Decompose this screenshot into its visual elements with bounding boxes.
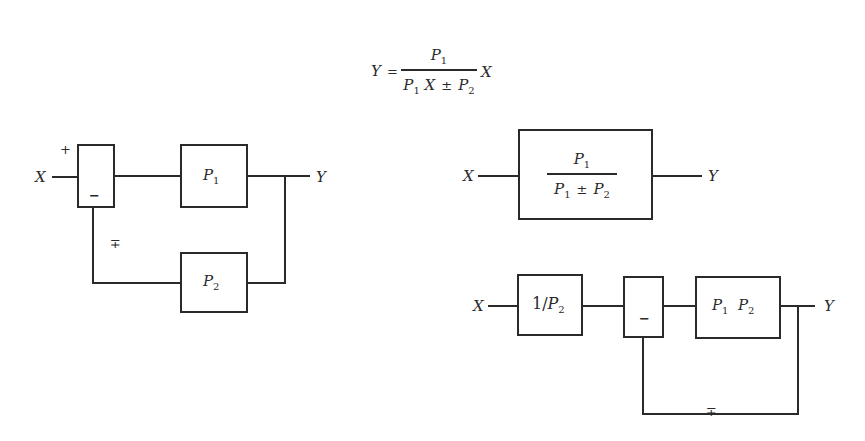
rt-denominator: P1±P2 (554, 175, 610, 200)
left-p1-label: P1 (203, 168, 219, 186)
eq-equals: = (387, 65, 398, 78)
left-minus-sign: − (89, 189, 100, 202)
rb-minus-sign: − (639, 312, 650, 325)
rt-numerator: P1 (574, 150, 590, 173)
left-feedback-right (247, 176, 285, 283)
rb-summer-box (624, 277, 663, 337)
rt-block-fraction: P1 P1±P2 (547, 150, 617, 200)
rb-feedback-line (643, 306, 798, 414)
eq-denominator: P1 X±P2 (403, 71, 474, 96)
eq-lhs: Y (371, 64, 381, 79)
rb-inv-p2-label: 1/P2 (532, 296, 565, 315)
eq-trailing-x: X (481, 65, 492, 80)
rb-p1p2-label: P1 P2 (712, 298, 754, 316)
rt-input-label: X (463, 169, 474, 184)
rb-output-label: Y (824, 299, 834, 314)
left-feedback-sign: ∓ (110, 237, 121, 250)
eq-fraction: P1 P1 X±P2 (401, 46, 477, 96)
left-plus-sign: + (60, 143, 71, 156)
left-input-label: X (35, 170, 46, 185)
rt-output-label: Y (708, 169, 718, 184)
eq-numerator: P1 (431, 46, 447, 69)
left-output-label: Y (316, 170, 326, 185)
left-p2-label: P2 (203, 274, 219, 292)
left-feedback-left (93, 207, 181, 283)
rb-input-label: X (473, 299, 484, 314)
rb-feedback-sign: ∓ (706, 405, 717, 418)
